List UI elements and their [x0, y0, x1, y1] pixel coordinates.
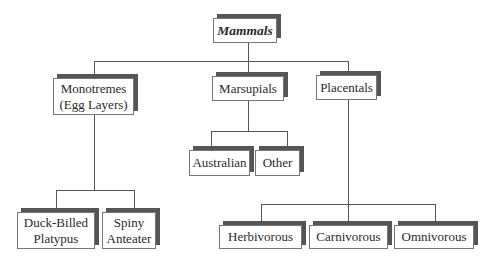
node-australian-label: Australian: [189, 150, 250, 176]
node-spiny-label-line1: Spiny: [114, 215, 144, 231]
node-monotremes-label-line1: Monotremes: [61, 81, 127, 97]
node-marsupials-label: Marsupials: [212, 76, 284, 101]
connector-marsupials-bar: [211, 131, 287, 132]
connector-marsupials-trunk: [248, 101, 249, 131]
node-monotremes-box: Monotremes (Egg Layers): [53, 78, 134, 115]
node-spiny-label-line2: Anteater: [107, 231, 152, 247]
mammals-classification-diagram: Mammals Monotremes (Egg Layers) Marsupia…: [0, 0, 489, 264]
node-other-label: Other: [255, 150, 300, 176]
node-duck-billed-box: Duck-Billed Platypus: [17, 212, 95, 249]
connector-root-trunk: [248, 42, 249, 61]
connector-placentals-trunk: [348, 100, 349, 204]
node-placentals-label: Placentals: [316, 75, 377, 100]
connector-monotremes-bar: [56, 190, 134, 191]
node-omnivorous-label: Omnivorous: [394, 225, 474, 249]
connector-level1-bar: [94, 61, 349, 62]
node-herbivorous-label: Herbivorous: [219, 225, 302, 249]
node-carnivorous-label: Carnivorous: [309, 225, 388, 249]
node-monotremes-label-line2: (Egg Layers): [59, 97, 127, 113]
connector-monotremes-trunk: [94, 115, 95, 190]
node-spiny-anteater-box: Spiny Anteater: [102, 212, 156, 249]
node-duck-billed-label-line1: Duck-Billed: [24, 215, 88, 231]
node-mammals-label: Mammals: [213, 18, 277, 43]
node-duck-billed-label-line2: Platypus: [34, 231, 79, 247]
